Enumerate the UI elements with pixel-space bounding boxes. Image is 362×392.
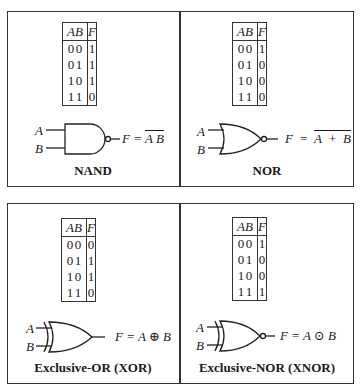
eq-prefix: F = xyxy=(285,131,314,146)
table-cell: 0 xyxy=(75,73,87,89)
input-b-label: B xyxy=(197,142,205,158)
table-cell: 1 xyxy=(87,73,96,89)
table-cell: 0 xyxy=(233,57,245,73)
table-cell: 1 xyxy=(245,89,257,106)
table-cell: 0 xyxy=(233,252,245,268)
eq-expression: A + B xyxy=(314,131,351,146)
header-b: B xyxy=(75,23,87,41)
table-cell: 1 xyxy=(233,73,245,89)
table-cell: 0 xyxy=(257,57,266,73)
table-cell: 0 xyxy=(233,236,245,253)
table-cell: 1 xyxy=(63,89,75,106)
input-a-label: A xyxy=(26,321,34,337)
header-f: F xyxy=(257,23,266,41)
header-b: B xyxy=(74,219,86,237)
nor-label: NOR xyxy=(180,163,354,179)
eq-expression: A ⊙ B xyxy=(303,328,336,343)
table-cell: 0 xyxy=(86,285,95,302)
table-cell: 0 xyxy=(63,41,75,58)
bottom-divider xyxy=(179,203,181,384)
header-f: F xyxy=(87,23,96,41)
nor-gate-icon xyxy=(206,120,286,160)
table-cell: 1 xyxy=(257,41,266,58)
xor-truth-table: ABF 000 011 101 110 xyxy=(61,218,96,302)
xnor-gate-icon xyxy=(205,317,285,357)
nor-truth-table: ABF 001 010 100 110 xyxy=(232,22,267,106)
eq-expression: A B xyxy=(145,131,164,146)
top-panel xyxy=(7,11,354,187)
input-b-label: B xyxy=(196,338,204,354)
table-cell: 0 xyxy=(245,268,257,284)
header-a: A xyxy=(233,218,245,236)
table-cell: 1 xyxy=(86,253,95,269)
table-cell: 1 xyxy=(74,285,86,302)
input-a-label: A xyxy=(197,124,205,140)
table-cell: 0 xyxy=(63,57,75,73)
table-cell: 1 xyxy=(63,73,75,89)
table-cell: 0 xyxy=(74,269,86,285)
table-cell: 1 xyxy=(257,236,266,253)
table-cell: 1 xyxy=(245,252,257,268)
header-a: A xyxy=(233,23,245,41)
table-cell: 0 xyxy=(87,89,96,106)
nand-gate-icon xyxy=(44,120,124,160)
header-f: F xyxy=(86,219,95,237)
xor-gate-icon xyxy=(34,318,114,358)
header-a: A xyxy=(63,23,75,41)
header-b: B xyxy=(245,23,257,41)
table-cell: 1 xyxy=(87,57,96,73)
table-cell: 0 xyxy=(257,268,266,284)
table-cell: 0 xyxy=(257,73,266,89)
table-cell: 1 xyxy=(233,89,245,106)
eq-prefix: F = xyxy=(115,329,138,344)
table-cell: 0 xyxy=(74,237,86,254)
top-divider xyxy=(179,11,181,187)
header-f: F xyxy=(257,218,266,236)
table-cell: 0 xyxy=(62,253,74,269)
nand-truth-table: ABF 001 011 101 110 xyxy=(62,22,97,106)
table-cell: 1 xyxy=(74,253,86,269)
xnor-label: Exclusive-NOR (XNOR) xyxy=(180,360,354,376)
input-b-label: B xyxy=(35,141,43,157)
table-cell: 1 xyxy=(86,269,95,285)
input-a-label: A xyxy=(35,123,43,139)
input-b-label: B xyxy=(26,339,34,355)
header-a: A xyxy=(62,219,74,237)
xor-equation: F = A ⊕ B xyxy=(115,329,171,345)
table-cell: 1 xyxy=(233,268,245,284)
table-cell: 1 xyxy=(245,284,257,301)
table-cell: 1 xyxy=(233,284,245,301)
table-cell: 1 xyxy=(62,285,74,302)
header-b: B xyxy=(245,218,257,236)
eq-prefix: F = xyxy=(122,131,145,146)
table-cell: 0 xyxy=(257,89,266,106)
nand-label: NAND xyxy=(7,163,179,179)
nor-equation: F = A + B xyxy=(285,131,351,147)
eq-expression: A ⊕ B xyxy=(138,329,171,344)
table-cell: 1 xyxy=(257,284,266,301)
table-cell: 1 xyxy=(245,57,257,73)
table-cell: 1 xyxy=(62,269,74,285)
eq-prefix: F = xyxy=(280,328,303,343)
table-cell: 0 xyxy=(257,252,266,268)
table-cell: 0 xyxy=(62,237,74,254)
table-cell: 0 xyxy=(245,73,257,89)
xor-label: Exclusive-OR (XOR) xyxy=(7,360,179,376)
table-cell: 0 xyxy=(86,237,95,254)
input-a-label: A xyxy=(196,320,204,336)
table-cell: 1 xyxy=(75,57,87,73)
table-cell: 0 xyxy=(245,41,257,58)
table-cell: 0 xyxy=(233,41,245,58)
table-cell: 0 xyxy=(245,236,257,253)
table-cell: 1 xyxy=(75,89,87,106)
xnor-truth-table: ABF 001 010 100 111 xyxy=(232,217,267,301)
table-cell: 0 xyxy=(75,41,87,58)
nand-equation: F = A B xyxy=(122,131,164,147)
xnor-equation: F = A ⊙ B xyxy=(280,328,336,344)
table-cell: 1 xyxy=(87,41,96,58)
